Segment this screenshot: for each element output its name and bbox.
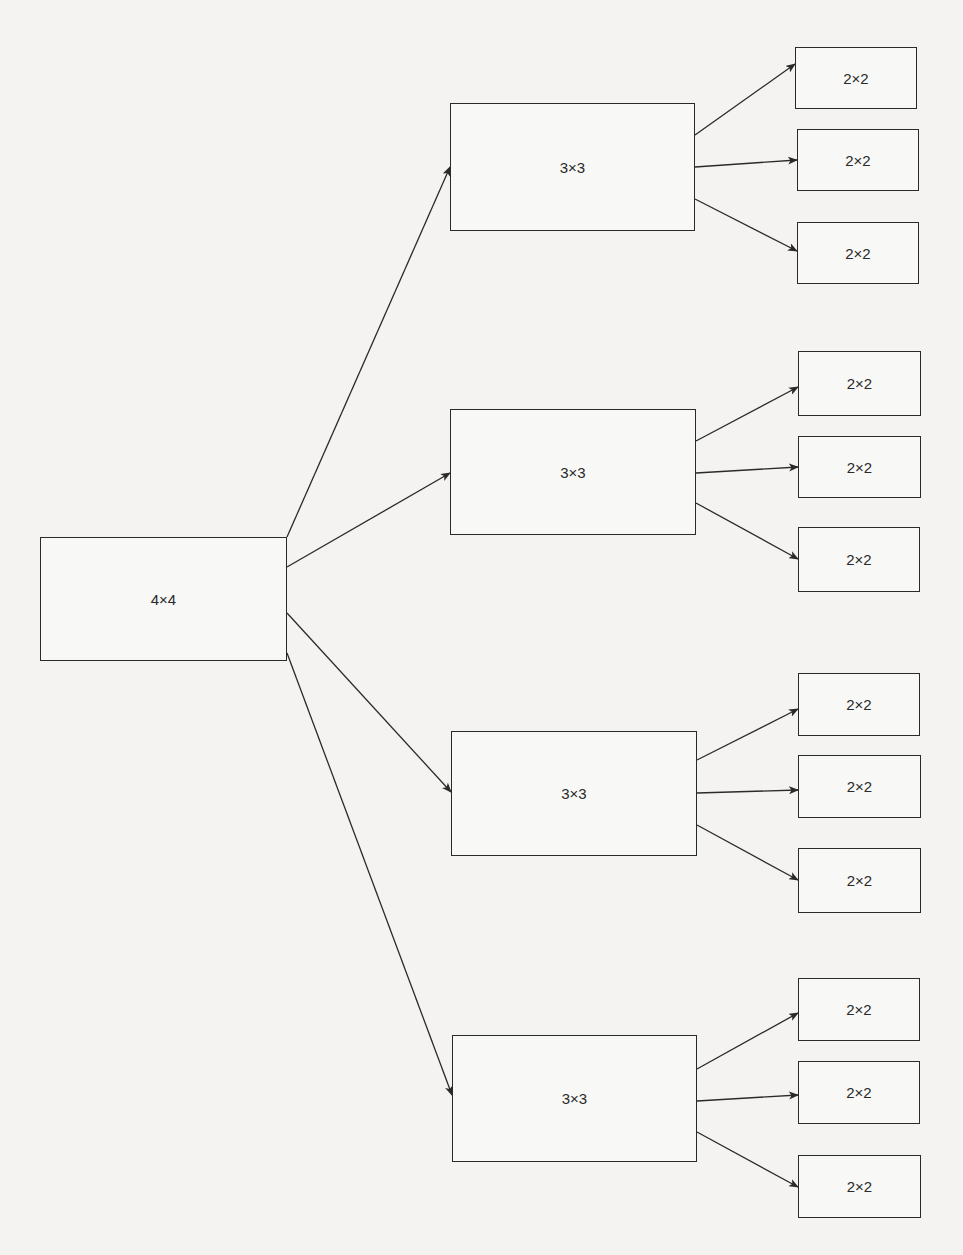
node-label: 3×3: [562, 1090, 587, 1107]
node-2x2-4c: 2×2: [798, 1155, 921, 1218]
node-2x2-2a: 2×2: [798, 351, 921, 416]
arrow-n0-to-n3: [287, 613, 451, 792]
node-label: 2×2: [846, 1084, 871, 1101]
arrow-n1-to-n1b: [695, 160, 797, 167]
node-label: 2×2: [847, 872, 872, 889]
node-3x3-3: 3×3: [451, 731, 697, 856]
arrow-n0-to-n4: [287, 653, 452, 1095]
node-label: 4×4: [151, 591, 176, 608]
node-2x2-3c: 2×2: [798, 848, 921, 913]
arrow-n1-to-n1a: [695, 64, 795, 135]
node-2x2-3a: 2×2: [798, 673, 920, 736]
node-label: 2×2: [847, 778, 872, 795]
arrow-n2-to-n2a: [696, 387, 798, 441]
node-3x3-2: 3×3: [450, 409, 696, 535]
arrow-n2-to-n2c: [696, 503, 798, 559]
arrow-n0-to-n2: [287, 473, 450, 567]
node-2x2-3b: 2×2: [798, 755, 921, 818]
node-2x2-2c: 2×2: [798, 527, 920, 592]
node-label: 3×3: [561, 785, 586, 802]
node-2x2-4b: 2×2: [798, 1061, 920, 1124]
node-2x2-1b: 2×2: [797, 129, 919, 191]
node-label: 2×2: [846, 696, 871, 713]
node-label: 3×3: [560, 464, 585, 481]
arrow-n4-to-n4a: [697, 1013, 798, 1069]
node-3x3-4: 3×3: [452, 1035, 697, 1162]
arrow-n4-to-n4c: [697, 1132, 798, 1187]
node-2x2-2b: 2×2: [798, 436, 921, 498]
node-label: 2×2: [847, 1178, 872, 1195]
arrow-n2-to-n2b: [696, 467, 798, 473]
arrow-n1-to-n1c: [695, 199, 797, 251]
arrow-n4-to-n4b: [697, 1095, 798, 1101]
node-label: 2×2: [845, 245, 870, 262]
arrow-group: [287, 64, 798, 1187]
node-label: 2×2: [845, 152, 870, 169]
arrow-n3-to-n3c: [697, 825, 798, 880]
arrow-n0-to-n1: [287, 167, 450, 537]
node-3x3-1: 3×3: [450, 103, 695, 231]
node-label: 2×2: [843, 70, 868, 87]
node-2x2-1c: 2×2: [797, 222, 919, 284]
node-label: 2×2: [847, 375, 872, 392]
tree-diagram: 4×4 3×3 3×3 3×3 3×3 2×2 2×2 2×2 2×2 2×2 …: [0, 0, 963, 1255]
node-label: 2×2: [847, 459, 872, 476]
node-root-4x4: 4×4: [40, 537, 287, 661]
node-2x2-4a: 2×2: [798, 978, 920, 1041]
node-label: 3×3: [560, 159, 585, 176]
arrow-n3-to-n3a: [697, 709, 798, 760]
node-label: 2×2: [846, 551, 871, 568]
node-2x2-1a: 2×2: [795, 47, 917, 109]
arrow-n3-to-n3b: [697, 790, 798, 793]
node-label: 2×2: [846, 1001, 871, 1018]
